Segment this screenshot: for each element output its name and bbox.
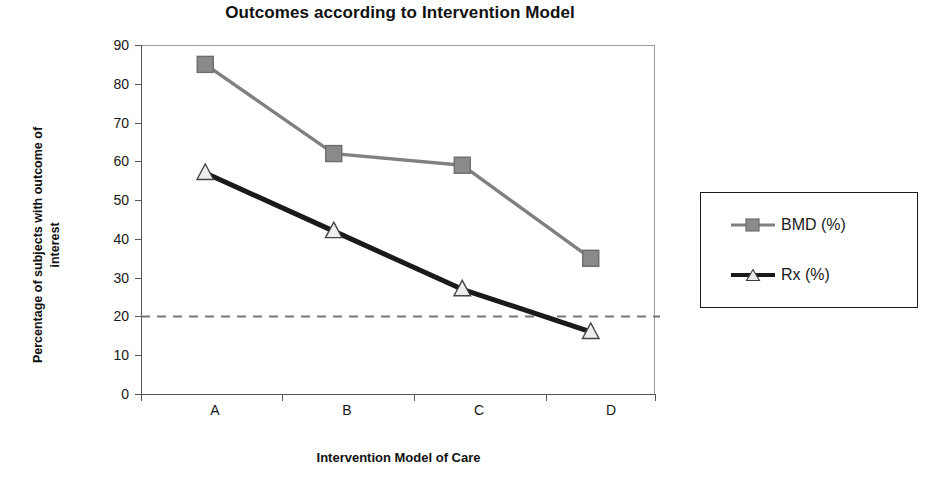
legend-swatch-square-icon <box>729 218 777 232</box>
chart-figure: Outcomes according to Intervention Model… <box>0 0 945 493</box>
x-tick-mark <box>546 394 547 401</box>
y-tick-mark <box>135 161 142 162</box>
chart-title: Outcomes according to Intervention Model <box>150 3 650 23</box>
x-tick-mark <box>655 394 656 401</box>
legend-label-bmd: BMD (%) <box>781 216 846 234</box>
x-tick-mark <box>282 394 283 401</box>
y-tick-mark <box>135 278 142 279</box>
y-tick-mark <box>135 84 142 85</box>
y-axis-title-line-2: interest <box>47 50 64 440</box>
y-tick-mark <box>135 123 142 124</box>
y-tick-label: 30 <box>93 271 129 285</box>
x-tick-label-d: D <box>581 402 641 418</box>
legend-label-rx: Rx (%) <box>781 266 830 284</box>
y-tick-label: 70 <box>93 116 129 130</box>
x-tick-label-a: A <box>185 402 245 418</box>
y-tick-mark <box>135 45 142 46</box>
y-tick-label: 10 <box>93 348 129 362</box>
y-tick-label: 0 <box>93 387 129 401</box>
legend-item-bmd: BMD (%) <box>729 215 846 235</box>
legend-item-rx: Rx (%) <box>729 265 830 285</box>
x-axis-title: Intervention Model of Care <box>141 450 656 465</box>
legend-swatch-triangle-icon <box>729 268 777 282</box>
legend: BMD (%) Rx (%) <box>700 192 918 308</box>
y-axis-title-line-1: Percentage of subjects with outcome of <box>30 50 47 440</box>
y-tick-label: 50 <box>93 193 129 207</box>
y-tick-mark <box>135 316 142 317</box>
x-axis-line <box>141 394 656 395</box>
y-axis-line <box>141 45 142 395</box>
plot-area-frame <box>141 45 655 394</box>
y-tick-mark <box>135 239 142 240</box>
y-tick-mark <box>135 200 142 201</box>
y-tick-label: 60 <box>93 154 129 168</box>
y-tick-label: 20 <box>93 309 129 323</box>
x-tick-mark <box>414 394 415 401</box>
y-tick-label: 40 <box>93 232 129 246</box>
x-tick-mark <box>141 394 142 401</box>
y-tick-label: 80 <box>93 77 129 91</box>
y-tick-mark <box>135 355 142 356</box>
x-tick-label-c: C <box>449 402 509 418</box>
x-tick-label-b: B <box>317 402 377 418</box>
y-axis-title: Percentage of subjects with outcome of i… <box>30 50 70 440</box>
y-tick-label: 90 <box>93 38 129 52</box>
